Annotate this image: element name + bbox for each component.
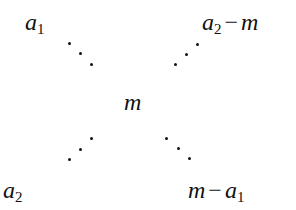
minus-operator: − (208, 177, 222, 203)
term-bottom-left: a2 (3, 178, 23, 205)
var-a: a (3, 177, 15, 203)
minus-operator: − (225, 9, 239, 35)
term-center: m (124, 90, 141, 114)
term-top-left: a1 (25, 10, 45, 37)
subscript: 1 (237, 189, 245, 205)
var-a: a (225, 177, 237, 203)
subscript: 2 (15, 189, 23, 205)
var-m: m (188, 177, 205, 203)
var-a: a (25, 9, 37, 35)
var-a: a (202, 9, 214, 35)
subscript: 2 (214, 21, 222, 37)
var-m: m (241, 9, 258, 35)
var-m: m (124, 89, 141, 115)
term-top-right: a2−m (202, 10, 258, 37)
subscript: 1 (37, 21, 45, 37)
term-bottom-right: m−a1 (188, 178, 244, 205)
